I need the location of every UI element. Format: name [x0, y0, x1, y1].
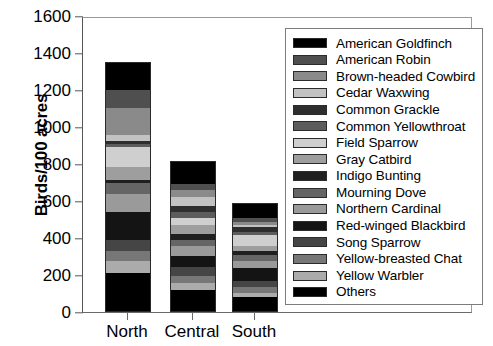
bar-segment[interactable]	[105, 147, 151, 167]
bar-segment[interactable]	[170, 190, 216, 197]
legend-item[interactable]: Brown-headed Cowbird	[293, 68, 476, 85]
bar-segment[interactable]	[170, 256, 216, 267]
y-axis-tick-label: 400	[0, 229, 82, 249]
bar-segment[interactable]	[105, 194, 151, 213]
legend-item-label: Common Yellowthroat	[336, 120, 465, 134]
stacked-bar-south[interactable]	[232, 203, 278, 312]
legend-item-label: American Robin	[336, 53, 431, 67]
bar-segment[interactable]	[170, 197, 216, 206]
bar-segment[interactable]	[105, 212, 151, 240]
legend-item[interactable]: Song Sparrow	[293, 234, 476, 251]
bar-segment[interactable]	[170, 218, 216, 226]
legend-swatch-icon	[293, 271, 327, 281]
x-axis-tick-mark	[254, 313, 255, 320]
y-axis-tick-label: 1600	[0, 7, 82, 27]
legend-item[interactable]: American Goldfinch	[293, 35, 476, 52]
stacked-bar-chart-figure: Birds/100 acres 160014001200100080060040…	[0, 0, 493, 346]
y-axis-tick-label: 1400	[0, 44, 82, 64]
legend-item[interactable]: Indigo Bunting	[293, 168, 476, 185]
x-axis-tick-mark	[127, 313, 128, 320]
legend-swatch-icon	[293, 254, 327, 264]
legend-item[interactable]: Mourning Dove	[293, 184, 476, 201]
chart-legend: American GoldfinchAmerican RobinBrown-he…	[285, 28, 483, 305]
y-axis-tick-label: 200	[0, 266, 82, 286]
x-axis-tick-label-south: South	[232, 322, 276, 342]
legend-item-label: Yellow-breasted Chat	[336, 252, 462, 266]
x-axis-tick-label-central: Central	[165, 322, 220, 342]
legend-item-label: Field Sparrow	[336, 136, 418, 150]
legend-item[interactable]: Common Yellowthroat	[293, 118, 476, 135]
legend-swatch-icon	[293, 105, 327, 115]
legend-item[interactable]: Yellow Warbler	[293, 267, 476, 284]
y-axis-tick-label: 600	[0, 192, 82, 212]
x-axis-tick-mark	[192, 313, 193, 320]
legend-swatch-icon	[293, 88, 327, 98]
legend-item[interactable]: Northern Cardinal	[293, 201, 476, 218]
legend-swatch-icon	[293, 55, 327, 65]
legend-item[interactable]: Gray Catbird	[293, 151, 476, 168]
legend-item-label: Brown-headed Cowbird	[336, 70, 475, 84]
bar-segment[interactable]	[170, 276, 216, 283]
legend-item-label: Red-winged Blackbird	[336, 219, 465, 233]
bar-segment[interactable]	[105, 90, 151, 108]
bar-segment[interactable]	[105, 240, 151, 251]
y-axis-tick-label: 1000	[0, 118, 82, 138]
bar-segment[interactable]	[105, 183, 151, 194]
bar-segment[interactable]	[105, 261, 151, 273]
legend-item-label: Others	[336, 285, 376, 299]
bar-segment[interactable]	[170, 161, 216, 183]
bar-segment[interactable]	[232, 235, 278, 246]
bar-segment[interactable]	[170, 225, 216, 234]
legend-item[interactable]: Others	[293, 284, 476, 301]
legend-item-label: Indigo Bunting	[336, 169, 421, 183]
y-axis-tick-label: 800	[0, 155, 82, 175]
bar-segment[interactable]	[105, 251, 151, 261]
bar-segment[interactable]	[170, 267, 216, 276]
legend-item-label: Cedar Waxwing	[336, 86, 429, 100]
legend-item[interactable]: Yellow-breasted Chat	[293, 251, 476, 268]
bar-segment[interactable]	[170, 290, 216, 312]
legend-item[interactable]: American Robin	[293, 52, 476, 69]
bar-segment[interactable]	[170, 246, 216, 256]
stacked-bar-central[interactable]	[170, 161, 216, 312]
legend-swatch-icon	[293, 287, 327, 297]
bar-segment[interactable]	[232, 261, 278, 268]
x-axis-tick-label-north: North	[106, 322, 148, 342]
legend-item[interactable]: Common Grackle	[293, 101, 476, 118]
legend-item[interactable]: Red-winged Blackbird	[293, 218, 476, 235]
legend-swatch-icon	[293, 237, 327, 247]
legend-item[interactable]: Field Sparrow	[293, 135, 476, 152]
bar-segment[interactable]	[232, 203, 278, 218]
bar-segment[interactable]	[105, 62, 151, 90]
bar-segment[interactable]	[232, 297, 278, 312]
stacked-bar-north[interactable]	[105, 62, 151, 312]
legend-swatch-icon	[293, 154, 327, 164]
legend-swatch-icon	[293, 221, 327, 231]
bar-segment[interactable]	[170, 283, 216, 290]
legend-item-label: Northern Cardinal	[336, 202, 441, 216]
legend-item-label: Gray Catbird	[336, 153, 411, 167]
legend-swatch-icon	[293, 71, 327, 81]
y-axis-tick-label: 1200	[0, 81, 82, 101]
legend-item-label: Common Grackle	[336, 103, 440, 117]
y-axis-tick-label: 0	[0, 303, 82, 323]
bar-segment[interactable]	[105, 167, 151, 180]
legend-item-label: Yellow Warbler	[336, 269, 424, 283]
legend-item-label: American Goldfinch	[336, 37, 452, 51]
legend-swatch-icon	[293, 38, 327, 48]
legend-swatch-icon	[293, 188, 327, 198]
legend-item-label: Song Sparrow	[336, 236, 420, 250]
bar-segment[interactable]	[105, 273, 151, 312]
bar-segment[interactable]	[232, 268, 278, 281]
legend-swatch-icon	[293, 204, 327, 214]
legend-swatch-icon	[293, 121, 327, 131]
bar-segment[interactable]	[105, 108, 151, 136]
legend-item[interactable]: Cedar Waxwing	[293, 85, 476, 102]
legend-swatch-icon	[293, 171, 327, 181]
legend-swatch-icon	[293, 138, 327, 148]
legend-item-label: Mourning Dove	[336, 186, 426, 200]
